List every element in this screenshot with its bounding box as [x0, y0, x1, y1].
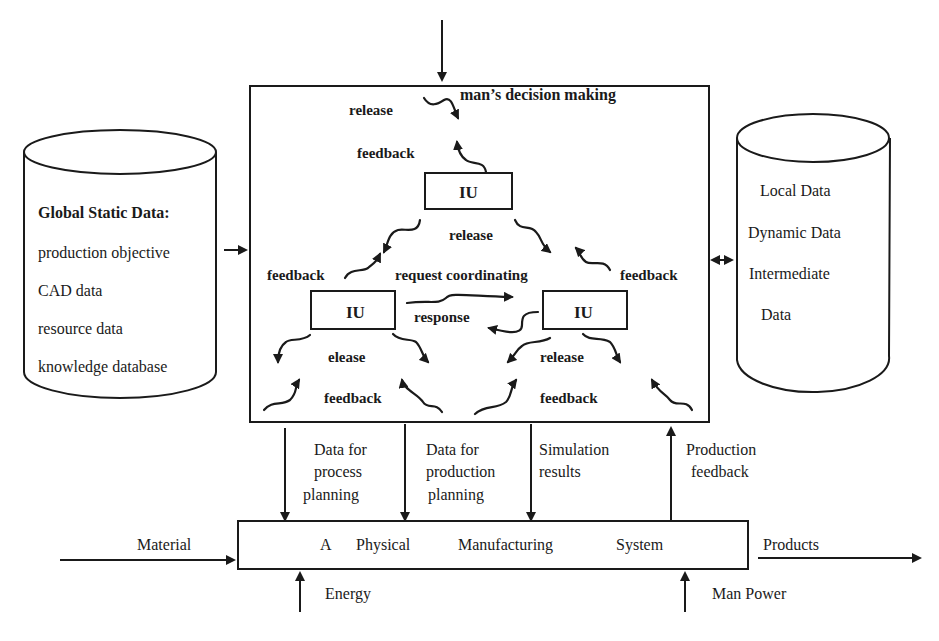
system-label-word: Manufacturing: [458, 536, 553, 554]
local-data-store: [737, 114, 890, 392]
system-label-word: A: [320, 536, 332, 553]
global-data-item: knowledge database: [38, 358, 167, 376]
local-data-item: Local Data: [760, 182, 831, 199]
feedback-label: feedback: [357, 145, 415, 161]
material-label: Material: [137, 536, 192, 553]
iu-label: IU: [574, 303, 593, 322]
feedback-label: feedback: [540, 390, 598, 406]
flow-label: planning: [303, 486, 359, 504]
response-label: response: [414, 309, 470, 325]
system-label-word: System: [616, 536, 664, 554]
feedback-label: feedback: [324, 390, 382, 406]
products-label: Products: [763, 536, 819, 553]
flow-label: Data for: [426, 441, 480, 458]
local-data-item: Intermediate: [749, 265, 830, 282]
global-data-item: resource data: [38, 320, 123, 337]
flow-label: Simulation: [539, 441, 609, 458]
flow-label: process: [314, 463, 362, 481]
energy-label: Energy: [325, 585, 371, 603]
manufacturing-system-diagram: man’s decision making Global Static Data…: [0, 0, 939, 641]
decision-making-label: man’s decision making: [460, 86, 616, 104]
flow-label: planning: [428, 486, 484, 504]
release-label: release: [540, 349, 584, 365]
flow-label: production: [426, 463, 495, 481]
request-coordinating-label: request coordinating: [395, 267, 528, 283]
release-label: elease: [328, 349, 366, 365]
control-box: [250, 86, 709, 422]
wavy-flow-arrows: [264, 98, 692, 414]
system-label-word: Physical: [356, 536, 411, 554]
feedback-label: feedback: [267, 267, 325, 283]
global-data-item: production objective: [38, 244, 170, 262]
global-data-title: Global Static Data:: [38, 204, 170, 221]
flow-label: Production: [686, 441, 756, 458]
iu-label: IU: [346, 303, 365, 322]
iu-label: IU: [459, 183, 478, 202]
manpower-label: Man Power: [712, 585, 787, 602]
flow-label: feedback: [691, 463, 749, 480]
global-data-item: CAD data: [38, 282, 102, 299]
flow-label: Data for: [314, 441, 368, 458]
local-data-item: Data: [761, 306, 791, 323]
feedback-label: feedback: [620, 267, 678, 283]
release-label: release: [349, 102, 393, 118]
flow-label: results: [539, 463, 581, 480]
local-data-item: Dynamic Data: [748, 224, 841, 242]
release-label: release: [449, 227, 493, 243]
